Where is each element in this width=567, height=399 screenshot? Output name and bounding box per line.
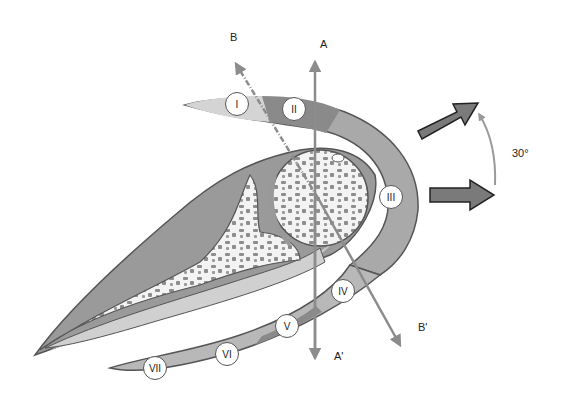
axis-b-bottom-label: B' [418, 322, 427, 333]
axis-a-bottom-label: A' [334, 351, 343, 362]
zone-V-badge: V [275, 314, 299, 338]
rotation-angle-label: 30° [512, 148, 529, 159]
zone-I-badge: I [225, 92, 249, 116]
rotation-arc [479, 114, 495, 185]
zone-VI-badge: VI [215, 342, 239, 366]
zone-IV-badge: IV [331, 279, 355, 303]
zone-III-badge: III [379, 185, 403, 209]
humeral-head [272, 150, 368, 246]
axis-a-top-label: A [320, 39, 327, 50]
force-arrow-horizontal [430, 180, 494, 210]
zone-VII-badge: VII [143, 356, 167, 380]
axis-b-top-label: B [230, 32, 237, 43]
shoulder-diagram [0, 0, 567, 399]
zone-II-badge: II [282, 97, 306, 121]
force-arrow-rotated [418, 103, 478, 139]
